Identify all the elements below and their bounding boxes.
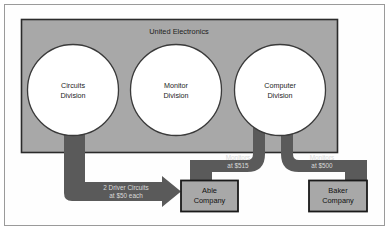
flow-label-computer-to-baker-line1: Monitors xyxy=(310,154,335,161)
customer-label-baker-line1: Baker xyxy=(328,186,348,195)
flow-label-computer-to-able-line2: at $515 xyxy=(227,162,249,169)
customer-label-able-line2: Company xyxy=(194,196,226,205)
diagram-svg: United Electronics 2 Driver Circuits at … xyxy=(0,0,391,232)
diagram-canvas: United Electronics 2 Driver Circuits at … xyxy=(0,0,391,232)
division-label-circuits-line2: Division xyxy=(60,91,85,100)
division-label-computer-line1: Computer xyxy=(264,81,296,90)
customer-label-able-line1: Able xyxy=(202,186,217,195)
flow-label-circuits-to-able-line1: 2 Driver Circuits xyxy=(103,184,148,191)
division-label-monitor-line2: Division xyxy=(163,91,188,100)
flow-label-circuits-to-able-line2: at $50 each xyxy=(109,192,143,199)
united-electronics-label: United Electronics xyxy=(149,27,209,36)
flow-label-computer-to-able-line1: Monitors xyxy=(226,154,251,161)
division-label-circuits-line1: Circuits xyxy=(61,81,85,90)
flow-label-computer-to-baker-line2: at $500 xyxy=(311,162,333,169)
division-label-monitor-line1: Monitor xyxy=(164,81,189,90)
division-label-computer-line2: Division xyxy=(267,91,292,100)
customer-label-baker-line2: Company xyxy=(322,196,354,205)
